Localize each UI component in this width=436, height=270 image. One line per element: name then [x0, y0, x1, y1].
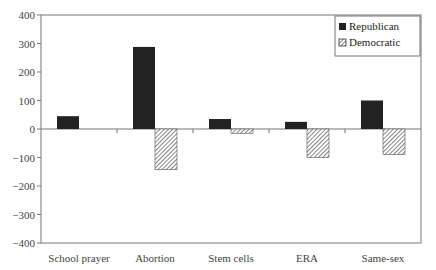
bar-republican-era [285, 122, 307, 129]
bar-chart: 4003002001000−100−200−300−400 School pra… [0, 0, 436, 270]
x-category-label: ERA [296, 252, 318, 264]
x-axis-labels: School prayerAbortionStem cellsERASame-s… [48, 252, 405, 264]
x-category-label: Abortion [135, 252, 175, 264]
bar-republican-abortion [133, 47, 155, 129]
bar-democratic-same-sex [383, 129, 405, 155]
bar-democratic-era [307, 129, 329, 158]
bar-republican-school-prayer [57, 116, 79, 129]
legend-label-republican: Republican [349, 20, 400, 32]
y-tick-label: 400 [19, 9, 36, 21]
y-tick-label: −100 [12, 152, 35, 164]
y-tick-label: 200 [19, 66, 36, 78]
bars-group [57, 47, 405, 170]
bar-republican-same-sex [361, 101, 383, 130]
legend: Republican Democratic [335, 16, 420, 56]
x-category-label: Same-sex [362, 252, 405, 264]
bar-republican-stem-cells [209, 119, 231, 129]
bar-democratic-stem-cells [231, 129, 253, 133]
y-tick-label: 100 [19, 95, 36, 107]
legend-swatch-democratic [339, 39, 346, 46]
y-axis: 4003002001000−100−200−300−400 [12, 9, 41, 249]
legend-swatch-republican [339, 23, 346, 30]
y-tick-label: 300 [19, 38, 36, 50]
y-tick-label: −200 [12, 180, 35, 192]
y-tick-label: −300 [12, 209, 35, 221]
y-tick-label: 0 [30, 123, 36, 135]
legend-label-democratic: Democratic [349, 36, 400, 48]
x-category-label: Stem cells [208, 252, 254, 264]
bar-democratic-abortion [155, 129, 177, 170]
y-tick-label: −400 [12, 237, 35, 249]
x-category-label: School prayer [48, 252, 110, 264]
